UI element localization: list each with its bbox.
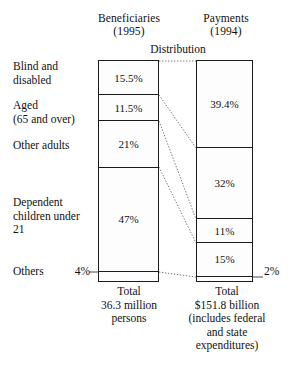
bar-segment: 11% (197, 219, 252, 243)
category-label-dependent-children: Dependent children under 21 (13, 196, 99, 237)
bar-segment-value: 39.4% (210, 98, 238, 110)
bar-segment: 21% (99, 121, 158, 168)
bar-segment-value: 11% (215, 225, 235, 237)
chart-figure: Beneficiaries (1995) Payments (1994) Dis… (0, 0, 289, 374)
bar-payments: 39.4%32%11%15%2% (196, 60, 253, 282)
callout-others-beneficiaries-percent: 4% (64, 265, 90, 279)
bar-segment-value: 32% (214, 177, 234, 189)
connector-seg2 (159, 121, 196, 219)
column-header-beneficiaries-year: (1995) (88, 25, 170, 38)
bar-segment-value: 47% (118, 213, 138, 225)
bar-segment: 2% (197, 277, 252, 281)
category-label-aged: Aged (65 and over) (13, 99, 99, 126)
total-payments: Total $151.8 billion (includes federal a… (168, 285, 286, 353)
column-header-payments-title: Payments (196, 12, 256, 25)
bar-segment: 47% (99, 168, 158, 272)
bar-segment-value: 11.5% (114, 102, 142, 114)
bar-segment-value: 15.5% (114, 72, 142, 84)
column-header-beneficiaries-title: Beneficiaries (88, 12, 170, 25)
bar-segment: 11.5% (99, 95, 158, 121)
bar-segment: 32% (197, 148, 252, 219)
category-label-blind-and-disabled: Blind and disabled (13, 60, 97, 87)
distribution-label: Distribution (118, 43, 238, 56)
connector-seg3 (159, 167, 196, 243)
connector-seg1 (159, 95, 196, 148)
connector-seg4 (159, 272, 196, 277)
bar-segment: 15% (197, 243, 252, 276)
column-header-payments-year: (1994) (196, 25, 256, 38)
bar-segment-value: 15% (214, 253, 234, 265)
column-header-beneficiaries: Beneficiaries (1995) (88, 12, 170, 37)
callout-others-payments-percent: 2% (264, 265, 288, 279)
category-label-other-adults: Other adults (13, 139, 99, 153)
bar-segment-value: 21% (118, 138, 138, 150)
total-beneficiaries: Total 36.3 million persons (83, 285, 175, 326)
bar-segment: 39.4% (197, 61, 252, 148)
category-label-others: Others (13, 265, 63, 279)
bar-segment: 4% (99, 272, 158, 281)
bar-segment: 15.5% (99, 61, 158, 95)
column-header-payments: Payments (1994) (196, 12, 256, 37)
bar-beneficiaries: 15.5%11.5%21%47%4% (98, 60, 159, 282)
